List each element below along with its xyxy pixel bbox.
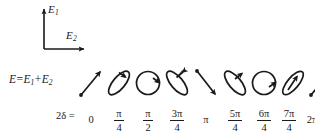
formula-term2: E xyxy=(42,73,49,85)
phase-tick-5-numerator: 5π xyxy=(228,108,243,121)
phase-axis-label-row: 2δ = 0 π 4 π 2 3π 4 xyxy=(0,104,315,137)
formula-term1-sub: 1 xyxy=(31,78,35,87)
linear-axis-line xyxy=(197,71,215,94)
axes-block: E1 E2 xyxy=(0,0,120,60)
state-5-ellipse-minus45-left xyxy=(219,62,251,102)
phase-prefix-equals: = xyxy=(69,110,75,121)
state-3-ellipse-minus45-right xyxy=(161,62,193,102)
phase-tick-2-denominator: 2 xyxy=(145,121,150,133)
state-8-linear-plus45-end xyxy=(305,62,315,102)
state-1-ellipse-plus45-right xyxy=(103,62,135,102)
axis-label-e2: E2 xyxy=(66,30,76,41)
phase-tick-3-numerator: 3π xyxy=(170,108,185,121)
polarization-state-row xyxy=(75,62,315,102)
formula-term1: E xyxy=(24,73,31,85)
ellipse-outline xyxy=(221,68,249,98)
phase-tick-5-denominator: 4 xyxy=(232,121,237,133)
phase-axis-prefix: 2δ = xyxy=(56,111,75,122)
phase-tick-2: π 2 xyxy=(132,104,164,137)
phase-tick-6-fraction: 6π 4 xyxy=(257,108,272,132)
state-glyph-4 xyxy=(190,62,222,102)
phase-tick-7-numerator: 7π xyxy=(282,108,297,121)
phase-tick-3: 3π 4 xyxy=(161,104,193,137)
state-glyph-1 xyxy=(103,62,135,102)
state-6-circle-left xyxy=(248,62,280,102)
delta-symbol: δ xyxy=(61,110,66,121)
state-glyph-5 xyxy=(219,62,251,102)
axis-label-e1: E1 xyxy=(48,4,58,15)
phase-tick-7-denominator: 4 xyxy=(286,121,291,133)
polarization-states-figure: E1 E2 E=E1+E2 xyxy=(0,0,315,137)
phase-tick-6-numerator: 6π xyxy=(257,108,272,121)
phase-tick-0-label: 0 xyxy=(88,115,93,126)
circle-outline xyxy=(137,72,160,95)
phase-tick-6-denominator: 4 xyxy=(261,121,266,133)
state-4-linear-minus45 xyxy=(190,62,222,102)
phase-tick-5-fraction: 5π 4 xyxy=(228,108,243,132)
linear-axis-line xyxy=(311,72,315,95)
phase-tick-1-numerator: π xyxy=(114,108,123,121)
tail-dot xyxy=(79,93,83,97)
phase-tick-7-fraction: 7π 4 xyxy=(282,108,297,132)
state-glyph-8 xyxy=(305,62,315,102)
formula-plus: + xyxy=(34,73,42,85)
phase-tick-8-label: 2π xyxy=(307,115,315,126)
state-glyph-6 xyxy=(248,62,280,102)
state-glyph-2 xyxy=(132,62,164,102)
phase-tick-1-denominator: 4 xyxy=(116,121,121,133)
phase-tick-1-fraction: π 4 xyxy=(114,108,123,132)
phase-tick-2-numerator: π xyxy=(143,108,152,121)
phase-tick-2-fraction: π 2 xyxy=(143,108,152,132)
phase-tick-8: 2π xyxy=(296,104,315,137)
phase-tick-4: π xyxy=(190,104,222,137)
tail-dot xyxy=(309,93,313,97)
ellipse-outline xyxy=(163,68,191,98)
formula-equals: = xyxy=(16,73,24,85)
phase-tick-5: 5π 4 xyxy=(219,104,251,137)
circle-outline xyxy=(253,72,276,95)
formula-term2-sub: 2 xyxy=(49,78,53,87)
phase-tick-3-fraction: 3π 4 xyxy=(170,108,185,132)
linear-axis-line xyxy=(81,72,100,95)
phase-tick-1: π 4 xyxy=(103,104,135,137)
axes-svg xyxy=(0,0,120,60)
state-2-circle-right xyxy=(132,62,164,102)
formula-e-equals-e1-plus-e2: E=E1+E2 xyxy=(9,74,53,86)
phase-tick-4-label: π xyxy=(203,115,208,126)
tail-dot xyxy=(195,69,199,73)
state-glyph-3 xyxy=(161,62,193,102)
phase-tick-3-denominator: 4 xyxy=(174,121,179,133)
formula-lhs: E xyxy=(9,73,16,85)
